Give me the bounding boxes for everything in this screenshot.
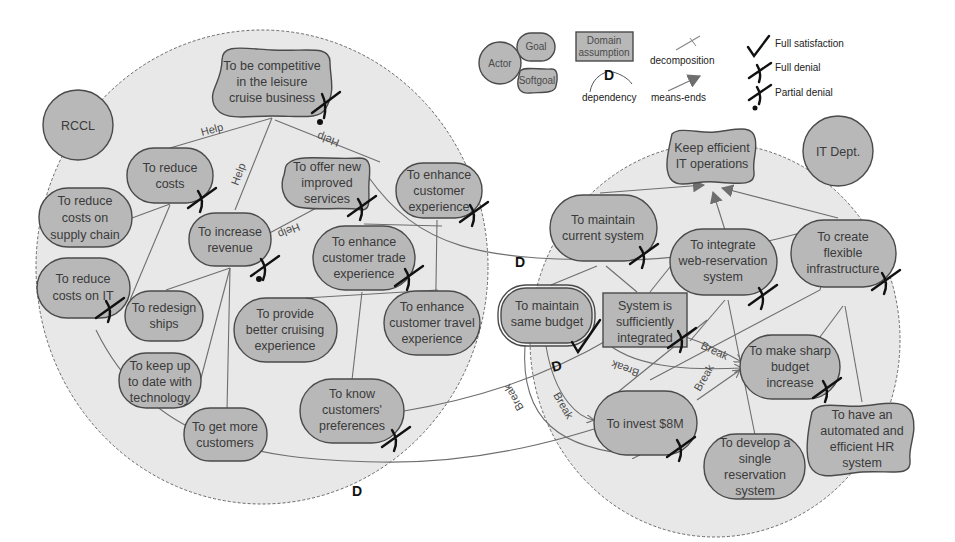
svg-text:technology: technology <box>130 391 191 405</box>
svg-text:flexible: flexible <box>824 246 863 260</box>
svg-text:budget: budget <box>771 360 810 374</box>
svg-text:System is: System is <box>618 299 672 313</box>
softgoal-automated-hr-system[interactable]: To have an automated and efficient HR sy… <box>807 403 914 476</box>
svg-text:Full denial: Full denial <box>775 62 821 73</box>
goal-reduce-costs-supply-chain[interactable]: To reduce costs on supply chain <box>39 188 132 247</box>
svg-text:To have an: To have an <box>831 408 892 422</box>
svg-text:to date with: to date with <box>128 375 192 389</box>
goal-keep-up-technology[interactable]: To keep up to date with technology <box>119 353 201 408</box>
svg-text:reservation: reservation <box>724 468 786 482</box>
svg-text:To get more: To get more <box>192 420 258 434</box>
full-denial-icon <box>749 63 771 82</box>
svg-text:sufficiently: sufficiently <box>616 315 675 329</box>
svg-text:ships: ships <box>149 317 178 331</box>
goal-know-customers-preferences[interactable]: To know customers' preferences <box>300 379 404 443</box>
svg-text:experience: experience <box>408 200 469 214</box>
svg-text:To be competitive: To be competitive <box>223 59 320 73</box>
goal-enhance-customer-trade-experience[interactable]: To enhance customer trade experience <box>313 226 415 290</box>
svg-text:Goal: Goal <box>525 41 546 52</box>
svg-text:To integrate: To integrate <box>690 238 755 252</box>
svg-text:To offer new: To offer new <box>293 160 362 174</box>
svg-text:To enhance: To enhance <box>332 235 397 249</box>
softgoal-be-competitive[interactable]: To be competitive in the leisure cruise … <box>213 48 332 117</box>
svg-text:dependency: dependency <box>582 92 637 103</box>
goal-create-flexible-infrastructure[interactable]: To create flexible infrastructure <box>791 220 896 287</box>
dependency-d-label: D <box>515 254 525 270</box>
svg-text:costs on IT: costs on IT <box>52 289 113 303</box>
svg-text:To know: To know <box>329 387 376 401</box>
svg-text:experience: experience <box>401 332 462 346</box>
svg-text:current system: current system <box>562 229 644 243</box>
svg-text:system: system <box>842 456 882 470</box>
goal-reduce-costs-it[interactable]: To reduce costs on IT <box>37 258 130 318</box>
svg-text:To create: To create <box>817 230 868 244</box>
svg-text:system: system <box>735 484 775 498</box>
goal-maintain-same-budget[interactable]: To maintain same budget <box>498 285 595 346</box>
dependency-d-label: D <box>352 483 362 499</box>
goal-enhance-customer-travel-experience[interactable]: To enhance customer travel experience <box>384 291 480 355</box>
svg-text:supply chain: supply chain <box>50 228 120 242</box>
svg-text:revenue: revenue <box>207 241 252 255</box>
partial-denial-dot-icon <box>256 276 262 282</box>
actor-label: IT Dept. <box>816 145 860 159</box>
svg-text:D: D <box>604 67 614 83</box>
svg-text:To redesign: To redesign <box>132 301 197 315</box>
svg-text:Softgoal: Softgoal <box>519 75 556 86</box>
svg-text:Domain: Domain <box>587 35 621 46</box>
full-satisfaction-icon <box>748 36 769 56</box>
svg-text:Keep efficient: Keep efficient <box>674 141 750 155</box>
goal-enhance-customer-experience[interactable]: To enhance customer experience <box>396 163 482 218</box>
svg-text:To enhance: To enhance <box>400 300 465 314</box>
domain-assumption-system-integrated[interactable]: System is sufficiently integrated <box>603 293 687 347</box>
svg-text:To develop a: To develop a <box>720 436 791 450</box>
svg-text:experience: experience <box>254 339 315 353</box>
svg-text:To reduce: To reduce <box>143 161 198 175</box>
goal-increase-revenue[interactable]: To increase revenue <box>189 213 271 266</box>
svg-text:decomposition: decomposition <box>650 55 714 66</box>
actor-rccl[interactable]: RCCL <box>43 90 113 160</box>
svg-text:cruise business: cruise business <box>229 91 315 105</box>
goal-maintain-current-system[interactable]: To maintain current system <box>550 195 657 261</box>
svg-text:services: services <box>304 192 350 206</box>
svg-text:integrated: integrated <box>617 331 673 345</box>
partial-denial-dot-icon <box>317 119 323 125</box>
svg-text:preferences: preferences <box>319 419 385 433</box>
partial-denial-dot-icon <box>753 106 758 111</box>
actor-it-dept[interactable]: IT Dept. <box>803 116 873 186</box>
svg-text:IT operations: IT operations <box>676 157 749 171</box>
svg-text:efficient HR: efficient HR <box>830 440 894 454</box>
goal-integrate-web-reservation[interactable]: To integrate web-reservation system <box>670 229 777 295</box>
svg-text:web-reservation: web-reservation <box>678 254 768 268</box>
svg-text:customer travel: customer travel <box>389 316 474 330</box>
svg-text:costs: costs <box>155 177 184 191</box>
break-label: Break <box>501 382 526 413</box>
svg-text:in the leisure: in the leisure <box>237 75 308 89</box>
svg-text:customer: customer <box>413 184 464 198</box>
svg-text:increase: increase <box>766 376 813 390</box>
svg-text:To enhance: To enhance <box>407 168 472 182</box>
actor-label: RCCL <box>61 119 95 133</box>
svg-text:Partial denial: Partial denial <box>775 87 833 98</box>
svg-text:means-ends: means-ends <box>651 92 706 103</box>
svg-text:better cruising: better cruising <box>246 323 325 337</box>
svg-text:To reduce: To reduce <box>56 272 111 286</box>
goal-model-diagram: Help Help Help Help D D D Break Break Br… <box>0 0 955 542</box>
svg-text:To provide: To provide <box>256 307 314 321</box>
svg-text:To reduce: To reduce <box>58 194 113 208</box>
svg-text:costs on: costs on <box>62 211 109 225</box>
goal-develop-single-reservation[interactable]: To develop a single reservation system <box>704 434 805 499</box>
svg-text:To increase: To increase <box>198 225 262 239</box>
goal-better-cruising-experience[interactable]: To provide better cruising experience <box>234 298 337 362</box>
svg-text:customer trade: customer trade <box>322 251 405 265</box>
svg-text:assumption: assumption <box>578 47 629 58</box>
svg-text:To maintain: To maintain <box>515 299 579 313</box>
goal-redesign-ships[interactable]: To redesign ships <box>125 291 203 341</box>
legend: Actor Goal Softgoal Domain assumption D … <box>479 32 844 111</box>
svg-text:single: single <box>739 452 772 466</box>
svg-text:automated and: automated and <box>820 424 903 438</box>
softgoal-offer-new-services[interactable]: To offer new improved services <box>282 158 370 210</box>
svg-text:system: system <box>703 270 743 284</box>
goal-get-more-customers[interactable]: To get more customers <box>184 408 267 461</box>
svg-text:To make sharp: To make sharp <box>749 344 831 358</box>
softgoal-keep-efficient-it-operations[interactable]: Keep efficient IT operations <box>667 129 756 184</box>
